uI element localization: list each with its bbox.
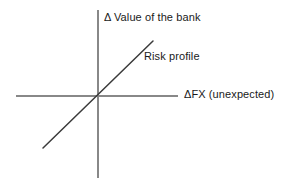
- risk-profile-label: Risk profile: [144, 50, 200, 63]
- risk-profile-diagram: Δ Value of the bank ΔFX (unexpected) Ris…: [0, 0, 294, 186]
- y-axis-label: Δ Value of the bank: [104, 11, 201, 24]
- x-axis-label: ΔFX (unexpected): [184, 88, 274, 101]
